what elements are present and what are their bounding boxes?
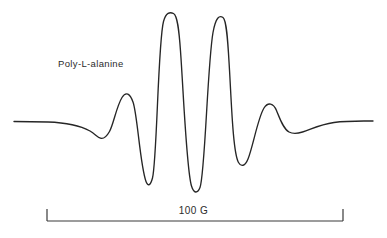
spectrum-plot-area [0,0,387,238]
scale-bar-value: 100 G [179,205,209,216]
sample-label: Poly-L-alanine [58,58,124,69]
epr-spectrum-figure: Poly-L-alanine 100 G [0,0,387,238]
spectrum-trace-line [14,13,373,192]
scale-bar-label: 100 G [0,205,387,216]
